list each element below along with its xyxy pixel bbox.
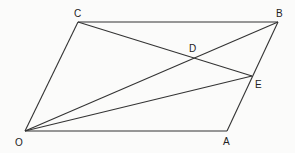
segment-CO	[25, 22, 78, 131]
label-D: D	[189, 43, 196, 54]
segment-OB	[25, 22, 278, 131]
label-A: A	[223, 136, 230, 147]
segment-OE	[25, 76, 252, 131]
diagram-svg: OABCDE	[0, 0, 295, 153]
segments	[25, 22, 278, 131]
label-O: O	[15, 137, 23, 148]
label-B: B	[276, 8, 283, 19]
parallelogram-diagram: OABCDE	[0, 0, 295, 153]
label-E: E	[255, 79, 262, 90]
segment-CE	[78, 22, 252, 76]
label-C: C	[74, 8, 81, 19]
segment-AB	[227, 22, 278, 131]
